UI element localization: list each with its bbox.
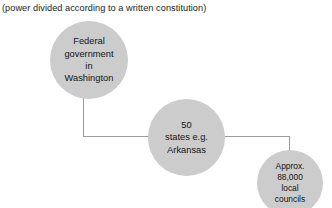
connector-states-to-councils (223, 136, 289, 137)
node-states-label: 50 states e.g. Arkansas (161, 119, 212, 156)
node-local-councils-label: Approx. 88,000 local councils (271, 161, 309, 206)
node-states[interactable]: 50 states e.g. Arkansas (148, 99, 225, 176)
diagram-caption: (power divided according to a written co… (2, 2, 322, 14)
node-federal-government-label: Federal government in Washington (60, 35, 117, 85)
node-federal-government[interactable]: Federal government in Washington (50, 21, 128, 99)
connector-federal-down (83, 98, 84, 136)
diagram-canvas: (power divided according to a written co… (0, 0, 332, 208)
node-local-councils[interactable]: Approx. 88,000 local councils (257, 150, 323, 208)
connector-federal-to-states (83, 136, 150, 137)
